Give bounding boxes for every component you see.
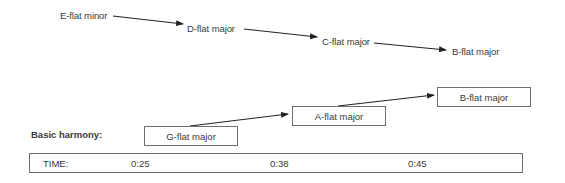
arrow-cflat-to-bflat bbox=[374, 43, 446, 50]
arrow-eflat-to-dflat bbox=[113, 16, 183, 24]
arrow-dflat-to-cflat bbox=[244, 29, 317, 37]
box-a-flat-major: A-flat major bbox=[292, 106, 386, 126]
chord-e-flat-minor: E-flat minor bbox=[60, 10, 107, 21]
arrow-gflat-to-aflat bbox=[190, 114, 288, 126]
arrow-aflat-to-bflat bbox=[338, 95, 434, 106]
chord-b-flat-major-top: B-flat major bbox=[452, 46, 499, 57]
time-mark-0-45: 0:45 bbox=[408, 158, 427, 169]
chord-c-flat-major: C-flat major bbox=[322, 36, 370, 47]
box-g-flat-major-label: G-flat major bbox=[166, 131, 216, 142]
basic-harmony-label: Basic harmony: bbox=[31, 129, 102, 140]
box-b-flat-major: B-flat major bbox=[437, 87, 531, 107]
box-g-flat-major: G-flat major bbox=[144, 126, 238, 146]
box-a-flat-major-label: A-flat major bbox=[315, 111, 364, 122]
box-b-flat-major-label: B-flat major bbox=[460, 92, 509, 103]
time-mark-0-25: 0:25 bbox=[131, 158, 150, 169]
chord-d-flat-major: D-flat major bbox=[187, 23, 235, 34]
time-label: TIME: bbox=[43, 158, 68, 169]
time-mark-0-38: 0:38 bbox=[270, 158, 289, 169]
timeline-bar: TIME: 0:25 0:38 0:45 bbox=[29, 153, 523, 173]
